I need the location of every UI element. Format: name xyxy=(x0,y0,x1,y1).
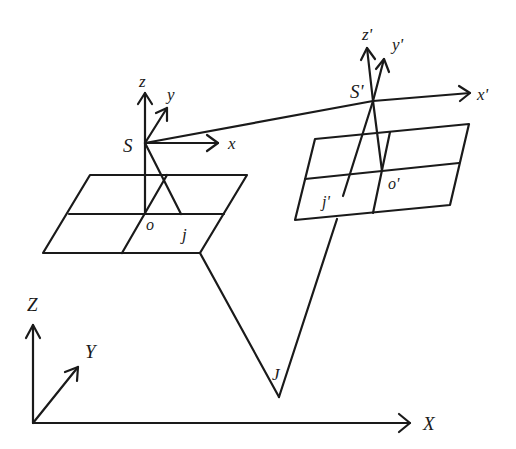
world-z-label: Z xyxy=(27,294,38,315)
right-principal-axis xyxy=(373,101,382,171)
world-y-axis-arrow-icon xyxy=(33,367,78,423)
right-image-point-label: j' xyxy=(320,193,330,211)
right-center-label: S' xyxy=(350,81,365,102)
right-ray-to-ground xyxy=(279,219,337,397)
world-x-axis-arrow-icon xyxy=(33,414,410,432)
world-axes: Z Y X xyxy=(26,294,436,434)
stereo-geometry-diagram: S z y x o j S' z' y' xyxy=(0,0,516,449)
left-x-axis-arrow-icon xyxy=(145,135,218,151)
ground-point-label: J xyxy=(272,365,281,384)
right-camera: S' z' y' x' o' j' xyxy=(295,25,489,220)
left-y-label: y xyxy=(165,85,175,104)
ground-rays: J xyxy=(200,219,337,397)
right-y-axis-arrow-icon xyxy=(373,59,389,101)
world-z-axis-arrow-icon xyxy=(26,325,40,423)
left-z-label: z xyxy=(138,72,146,91)
left-image-point-label: j xyxy=(180,225,187,244)
left-camera: S z y x o j xyxy=(43,72,247,253)
left-principal-point-label: o xyxy=(146,216,154,233)
right-x-axis-arrow-icon xyxy=(373,86,470,101)
world-y-label: Y xyxy=(85,341,98,362)
right-y-label: y' xyxy=(390,35,404,54)
right-principal-point-label: o' xyxy=(388,175,400,192)
world-x-label: X xyxy=(422,413,436,434)
left-y-axis-arrow-icon xyxy=(145,108,167,143)
left-ray-to-ground xyxy=(200,253,279,397)
left-center-label: S xyxy=(123,135,133,156)
right-z-label: z' xyxy=(361,25,373,44)
right-x-label: x' xyxy=(476,85,489,104)
right-ray-to-j-prime xyxy=(343,101,373,196)
left-x-label: x xyxy=(227,134,236,153)
